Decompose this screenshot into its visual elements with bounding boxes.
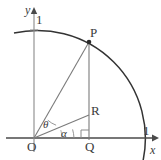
right-angle-marker-icon xyxy=(81,130,89,138)
x-axis-label: x xyxy=(150,144,155,156)
angle-label-theta: θ xyxy=(43,119,48,130)
point-label-P: P xyxy=(90,26,97,39)
point-label-Q: Q xyxy=(85,140,94,153)
y-axis-tick-label: 1 xyxy=(36,13,43,26)
x-axis-tick-label: 1 xyxy=(143,124,150,137)
geometry-figure: y 1 1 x O P R Q θ α xyxy=(0,0,161,160)
x-axis-arrow-icon xyxy=(152,135,159,142)
angle-arc-alpha xyxy=(73,129,74,138)
point-label-O: O xyxy=(27,140,36,153)
y-axis-label: y xyxy=(25,4,30,16)
angle-label-alpha: α xyxy=(61,128,67,139)
point-label-R: R xyxy=(91,104,100,117)
angle-arc-theta xyxy=(48,120,56,125)
diagram-canvas xyxy=(0,0,161,160)
point-marker-P xyxy=(87,40,92,45)
